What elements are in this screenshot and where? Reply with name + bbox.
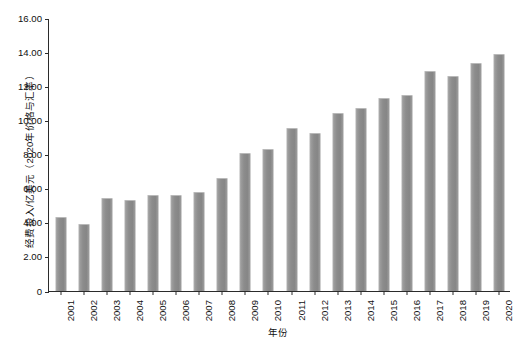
x-tick-mark [360,291,361,295]
bar-slot [49,19,72,291]
x-tick-mark [60,291,61,295]
x-tick-mark [430,291,431,295]
x-tick-mark [314,291,315,295]
y-tick-label: 6.00 [23,183,42,194]
x-tick-mark [383,291,384,295]
y-tick-label: 4.00 [23,217,42,228]
bar[interactable] [78,224,89,291]
bar[interactable] [332,113,343,291]
bar-slot [165,19,188,291]
bar-slot [326,19,349,291]
x-tick-mark [476,291,477,295]
x-tick-mark [199,291,200,295]
bar-slot [280,19,303,291]
x-tick-mark [83,291,84,295]
bar[interactable] [378,98,389,291]
bar[interactable] [194,192,205,291]
bar-slot [188,19,211,291]
bars-layer [49,19,510,291]
bar-slot [234,19,257,291]
bar-slot [303,19,326,291]
bar-slot [372,19,395,291]
bar[interactable] [147,195,158,291]
bar[interactable] [309,133,320,291]
bar-slot [488,19,511,291]
bar-slot [419,19,442,291]
plot-area: 02.004.006.008.0010.0012.0014.0016.00 [48,19,510,292]
bar[interactable] [425,71,436,291]
bar[interactable] [171,195,182,291]
bar[interactable] [448,76,459,291]
x-tick-mark [245,291,246,295]
bar-slot [95,19,118,291]
bar-slot [257,19,280,291]
bar-slot [72,19,95,291]
bar[interactable] [263,149,274,291]
bar[interactable] [494,54,505,291]
y-tick-label: 2.00 [23,251,42,262]
y-tick-mark [45,292,49,293]
x-tick-mark [176,291,177,295]
x-tick-mark [222,291,223,295]
x-tick-mark [453,291,454,295]
x-tick-mark [407,291,408,295]
bar[interactable] [217,178,228,291]
x-tick-mark [337,291,338,295]
x-axis-title: 年份 [0,325,516,339]
bar[interactable] [286,128,297,291]
bar[interactable] [124,200,135,291]
bar-slot [141,19,164,291]
y-tick-label: 16.00 [18,13,42,24]
bar-slot [349,19,372,291]
bar-slot [118,19,141,291]
bar[interactable] [55,217,66,291]
x-tick-mark [291,291,292,295]
bar-chart: 经费投入/亿美元（2020年价格与汇率） 02.004.006.008.0010… [0,0,516,347]
x-tick-mark [129,291,130,295]
x-tick-mark [268,291,269,295]
bar-slot [396,19,419,291]
bar[interactable] [471,63,482,291]
x-tick-mark [152,291,153,295]
x-tick-mark [106,291,107,295]
bar[interactable] [402,95,413,291]
bar[interactable] [240,153,251,291]
bar[interactable] [355,108,366,291]
y-tick-label: 12.00 [18,81,42,92]
bar-slot [211,19,234,291]
y-tick-label: 14.00 [18,47,42,58]
y-tick-label: 0 [37,286,42,297]
bar[interactable] [101,198,112,291]
x-tick-mark [499,291,500,295]
y-tick-label: 10.00 [18,115,42,126]
bar-slot [465,19,488,291]
bar-slot [442,19,465,291]
y-tick-label: 8.00 [23,149,42,160]
